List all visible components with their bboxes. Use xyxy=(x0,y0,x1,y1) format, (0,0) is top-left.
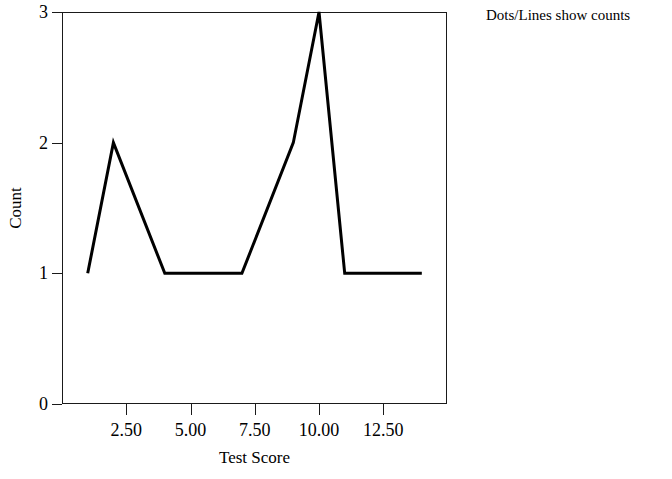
x-axis-tick xyxy=(126,404,127,415)
chart-annotation: Dots/Lines show counts xyxy=(486,6,630,25)
x-axis-tick-label: 12.50 xyxy=(348,420,418,440)
x-axis-tick-label: 7.50 xyxy=(220,420,290,440)
count-line-series xyxy=(88,12,422,273)
series-layer xyxy=(62,12,447,404)
y-axis-tick xyxy=(52,273,62,274)
y-axis-tick-label: 1 xyxy=(18,264,48,282)
x-axis-tick xyxy=(319,404,320,415)
x-axis-tick-label: 5.00 xyxy=(156,420,226,440)
y-axis-title: Count xyxy=(6,163,26,253)
y-axis-tick-label: 2 xyxy=(18,134,48,152)
y-axis-tick-label: 3 xyxy=(18,3,48,21)
count-vs-test-score-chart: 0123 Count 2.505.007.5010.0012.50 Test S… xyxy=(0,0,672,479)
x-axis-tick-label: 10.00 xyxy=(284,420,354,440)
y-axis-tick xyxy=(52,143,62,144)
y-axis-tick xyxy=(52,404,62,405)
y-axis-tick xyxy=(52,12,62,13)
x-axis-tick xyxy=(191,404,192,415)
x-axis-tick-label: 2.50 xyxy=(91,420,161,440)
x-axis-tick xyxy=(383,404,384,415)
y-axis-tick-label: 0 xyxy=(18,395,48,413)
x-axis-title: Test Score xyxy=(62,448,447,468)
x-axis-tick xyxy=(255,404,256,415)
